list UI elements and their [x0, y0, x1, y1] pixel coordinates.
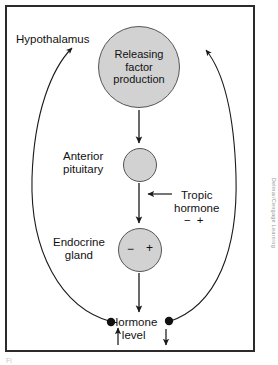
figure-root: Releasing factor production − + Hypothal… [0, 0, 278, 365]
node-releasing-factor-production: Releasing factor production [98, 26, 180, 108]
tropic-hormone-line2: hormone [174, 202, 219, 214]
tropic-plus-sign: + [197, 214, 210, 226]
releasing-factor-line2: factor [125, 61, 153, 73]
publisher-credit: Delmar/Cengage Learning [271, 178, 277, 248]
endocrine-gland-line1: Endocrine [53, 236, 105, 248]
hormone-level-line2: level [122, 329, 146, 341]
label-hormone-level: Hormone level [110, 316, 157, 342]
tropic-hormone-line1: Tropic [181, 189, 213, 201]
node-anterior-pituitary [123, 148, 157, 182]
hormone-level-line1: Hormone [110, 316, 157, 328]
releasing-factor-line1: Releasing [115, 48, 164, 60]
releasing-factor-text: Releasing factor production [113, 48, 164, 86]
tropic-hormone-signs: −+ [184, 214, 209, 226]
endocrine-gland-minus-sign: − [127, 242, 134, 256]
label-tropic-hormone: Tropic hormone [174, 189, 219, 215]
label-anterior-pituitary: Anterior pituitary [63, 150, 103, 176]
endocrine-gland-plus-sign: + [146, 241, 153, 255]
endocrine-gland-line2: gland [65, 249, 93, 261]
tropic-minus-sign: − [184, 214, 197, 226]
label-endocrine-gland: Endocrine gland [53, 236, 105, 262]
releasing-factor-line3: production [113, 73, 164, 85]
anterior-pituitary-line1: Anterior [63, 150, 103, 162]
anterior-pituitary-line2: pituitary [63, 163, 103, 175]
label-hypothalamus: Hypothalamus [16, 33, 90, 46]
node-endocrine-gland: − + [118, 228, 162, 272]
caption-fragment: Fi [6, 357, 246, 363]
